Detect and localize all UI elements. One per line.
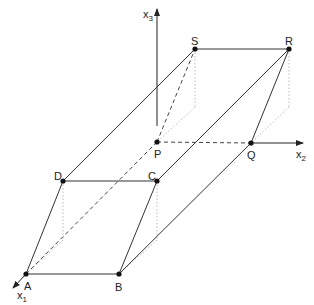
edge-PQ [157,142,251,143]
label-S: S [191,35,198,47]
hidden-edges [26,49,251,274]
point-S [192,46,197,51]
point-P [154,139,159,144]
point-A [23,271,28,276]
edge-CR [157,49,289,181]
edge-DA [26,181,63,274]
point-R [286,46,291,51]
label-x2: x2 [296,148,307,163]
edge-DS [63,49,195,181]
edge-AP [26,142,157,274]
label-R: R [285,35,293,47]
label-D: D [54,170,62,182]
edge-BQ [119,143,251,274]
label-x3: x3 [143,8,154,23]
point-B [116,271,121,276]
parallelepiped-diagram: A B C D P Q R S x3 x2 x1 [0,0,314,305]
edge-RQ [251,49,289,143]
label-B: B [115,281,122,293]
point-Q [248,140,253,145]
label-Q: Q [247,149,256,161]
label-P: P [154,148,161,160]
edge-BC [119,181,157,274]
label-A: A [24,280,32,292]
edge-PS [157,49,195,142]
label-C: C [148,170,156,182]
